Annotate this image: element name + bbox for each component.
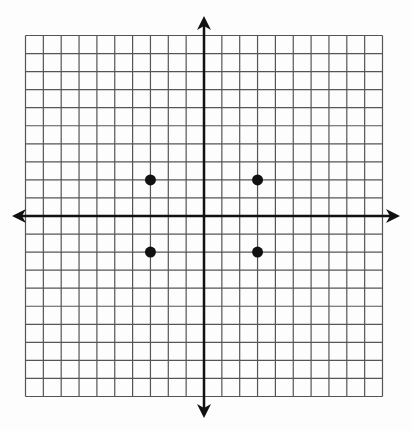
data-point [145,247,156,258]
axes [12,16,400,418]
data-point [252,247,263,258]
data-point [252,174,263,185]
data-point [145,174,156,185]
coordinate-plane [0,0,412,431]
